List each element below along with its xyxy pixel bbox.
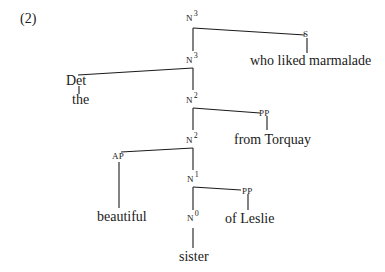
- node-n0: N0: [187, 214, 199, 223]
- example-number: (2): [20, 12, 36, 26]
- node-s: S: [303, 30, 308, 39]
- node-n3-top: N3: [186, 14, 198, 23]
- node-n2-top: N2: [186, 96, 198, 105]
- node-pp-1: PP: [259, 109, 270, 118]
- pp-1-terminal: from Torquay: [234, 133, 311, 147]
- s-terminal: who liked marmalade: [250, 54, 371, 68]
- det-terminal: the: [72, 93, 89, 107]
- node-pp-2: PP: [242, 187, 253, 196]
- node-n2-mid: N2: [186, 136, 198, 145]
- node-n3-mid: N3: [186, 56, 198, 65]
- node-ap: AP: [112, 152, 124, 161]
- pp-2-terminal: of Leslie: [225, 212, 274, 226]
- ap-terminal: beautiful: [97, 210, 147, 224]
- n0-terminal: sister: [179, 250, 209, 264]
- node-n1: N1: [187, 175, 199, 184]
- node-det: Det: [66, 74, 86, 88]
